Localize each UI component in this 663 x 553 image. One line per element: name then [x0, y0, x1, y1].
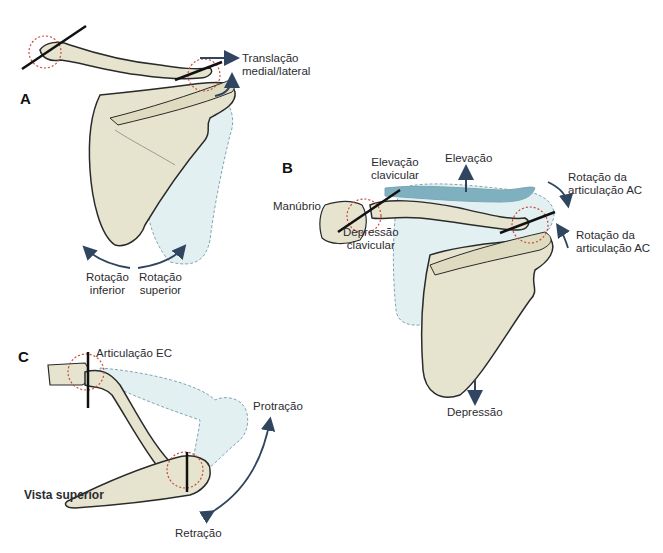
label-ac-rotation-bottom-line2: articulação AC [576, 242, 650, 255]
label-elevation: Elevação [445, 152, 492, 165]
label-depression: Depressão [447, 406, 503, 419]
panel-a-clavicle [40, 42, 212, 79]
panel-b-ac-rotation-bottom-arrow [558, 226, 568, 248]
label-inferior-rotation-line1: Rotação [86, 271, 129, 284]
label-clavicular-depression-line2: clavicular [343, 239, 399, 252]
label-clavicular-elevation: Elevação clavicular [371, 156, 419, 182]
panel-a-figure [22, 26, 236, 268]
label-protraction: Protração [253, 400, 303, 413]
label-clavicular-elevation-line1: Elevação [371, 156, 419, 169]
label-manubrium: Manúbrio [273, 200, 321, 213]
label-clavicular-depression-line1: Depressão [343, 226, 399, 239]
label-translation-line1: Translação [242, 52, 310, 65]
label-ac-rotation-top: Rotação da articulação AC [568, 171, 642, 197]
label-superior-rotation: Rotação superior [139, 271, 182, 297]
panel-a-inferior-rotation-arrow [85, 248, 130, 268]
label-translation-line2: medial/lateral [242, 65, 310, 78]
label-inferior-rotation-line2: inferior [86, 284, 129, 297]
label-ac-rotation-bottom: Rotação da articulação AC [576, 229, 650, 255]
panel-b-figure [320, 168, 568, 402]
label-superior-rotation-line2: superior [139, 284, 182, 297]
panel-b-ac-rotation-top-arrow [548, 182, 568, 205]
label-clavicular-depression: Depressão clavicular [343, 226, 399, 252]
label-ec-joint: Articulação EC [96, 347, 172, 360]
label-ac-rotation-bottom-line1: Rotação da [576, 229, 650, 242]
panel-b-letter: B [282, 159, 293, 176]
label-clavicular-elevation-line2: clavicular [371, 169, 419, 182]
panel-c-letter: C [18, 348, 29, 365]
label-superior-view: Vista superior [24, 489, 104, 502]
panel-a-letter: A [20, 90, 31, 107]
label-retraction: Retração [175, 527, 222, 540]
label-ac-rotation-top-line2: articulação AC [568, 184, 642, 197]
label-ac-rotation-top-line1: Rotação da [568, 171, 642, 184]
label-inferior-rotation: Rotação inferior [86, 271, 129, 297]
label-superior-rotation-line1: Rotação [139, 271, 182, 284]
label-translation: Translação medial/lateral [242, 52, 310, 78]
